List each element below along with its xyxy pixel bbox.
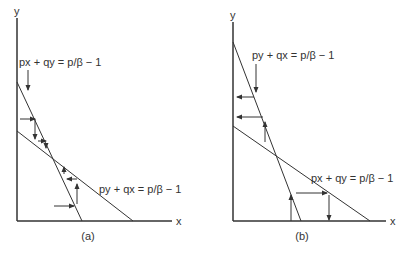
diagram-canvas: y x px + qy = p/β − 1 py + qx = p/β − 1 … bbox=[0, 0, 406, 253]
shallow-line bbox=[17, 131, 133, 221]
panel-a: y x px + qy = p/β − 1 py + qx = p/β − 1 … bbox=[14, 5, 182, 242]
shallow-line-label: px + qy = p/β − 1 bbox=[311, 172, 393, 184]
shallow-line-label: py + qx = p/β − 1 bbox=[99, 183, 181, 195]
panel-caption: (b) bbox=[295, 230, 308, 242]
x-axis-label: x bbox=[176, 215, 182, 227]
steep-line bbox=[17, 82, 82, 221]
y-axis-label: y bbox=[230, 9, 236, 21]
panel-b: y x py + qx = p/β − 1 px + qy = p/β − 1 … bbox=[230, 9, 396, 242]
steep-line bbox=[233, 42, 301, 221]
steep-line-label: px + qy = p/β − 1 bbox=[19, 56, 101, 68]
x-axis-label: x bbox=[390, 215, 396, 227]
panel-caption: (a) bbox=[81, 230, 94, 242]
y-axis-label: y bbox=[14, 5, 20, 17]
steep-line-label: py + qx = p/β − 1 bbox=[252, 49, 334, 61]
adjustment-arrows bbox=[237, 97, 329, 221]
